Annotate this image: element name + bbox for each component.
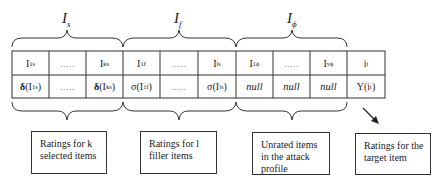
top-brace-filler — [123, 30, 236, 47]
header-cell-ellipsis: ..... — [49, 52, 86, 75]
header-cell-selected-last: Iks — [86, 52, 123, 75]
note-selected-items: Ratings for k selected items — [31, 131, 107, 174]
bottom-brace-selected — [12, 102, 123, 120]
value-cell-ellipsis: ..... — [49, 75, 86, 98]
note-unrated-items: Unrated items in the attack profile — [252, 132, 330, 175]
header-cell-selected-first: I1s — [12, 52, 49, 75]
header-cell-target: it — [347, 52, 385, 75]
bottom-brace-unrated — [236, 102, 347, 120]
value-cell-filler-last: σ(Ils) — [198, 75, 236, 98]
header-cell-ellipsis: ..... — [273, 52, 310, 75]
header-cell-filler-first: I1f — [123, 52, 160, 75]
note-target-item: Ratings for the target item — [355, 133, 431, 175]
value-cell-filler-first: σ(I1f) — [123, 75, 160, 98]
header-cell-filler-last: Ils — [198, 52, 236, 75]
value-cell-selected-first: δ(I1s) — [12, 75, 49, 98]
bottom-brace-filler — [123, 102, 236, 120]
value-cell-null: null — [236, 75, 273, 98]
header-cell-unrated-first: I1ϕ — [236, 52, 273, 75]
header-cell-ellipsis: ..... — [160, 52, 198, 75]
value-cell-selected-last: δ(Iks) — [86, 75, 123, 98]
note-filler-items: Ratings for l filler items — [140, 131, 217, 174]
set-label-filler: If — [174, 11, 182, 29]
value-cell-target: Υ(it) — [347, 75, 385, 98]
top-brace-unrated — [236, 30, 347, 47]
value-cell-null: null — [273, 75, 310, 98]
set-label-selected: Is — [62, 11, 71, 29]
top-brace-selected — [12, 30, 123, 47]
value-cell-ellipsis: ..... — [160, 75, 198, 98]
header-cell-unrated-last: Ivϕ — [310, 52, 347, 75]
value-cell-null: null — [310, 75, 347, 98]
set-label-unrated: Iϕ — [287, 11, 297, 29]
